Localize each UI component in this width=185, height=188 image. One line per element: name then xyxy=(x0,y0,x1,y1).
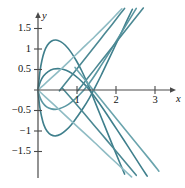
y-tick-label-−1: −1 xyxy=(0,126,31,137)
y-axis-arrow xyxy=(35,12,41,18)
x-axis-arrow xyxy=(170,87,176,93)
x-tick-label-2: 2 xyxy=(106,95,126,106)
x-axis-label: x xyxy=(176,94,181,105)
y-tick-label-−1.5: −1.5 xyxy=(0,146,31,157)
y-tick-label-1.5: 1.5 xyxy=(0,23,31,34)
math-figure: 1231.510.5−0.5−1−1.5 y x xyxy=(0,0,185,188)
y-axis-label: y xyxy=(42,11,47,22)
y-tick-label-0.5: 0.5 xyxy=(0,64,31,75)
curves-layer xyxy=(38,8,159,177)
x-tick-label-1: 1 xyxy=(67,95,87,106)
y-tick-label-−0.5: −0.5 xyxy=(0,105,31,116)
curve-line-rising-pale xyxy=(38,9,122,90)
curve-curve-arch-high xyxy=(38,40,125,174)
curve-curve-valley-deep xyxy=(38,9,132,136)
x-tick-label-3: 3 xyxy=(145,95,165,106)
y-tick-label-1: 1 xyxy=(0,44,31,55)
